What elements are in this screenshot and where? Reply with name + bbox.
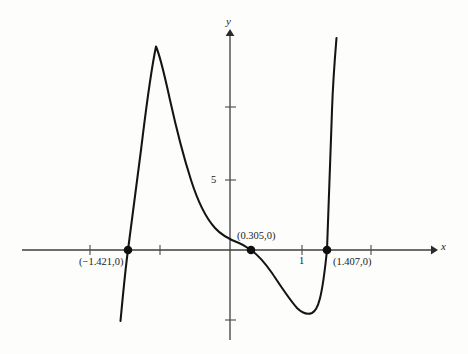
root-label-left: (−1.421,0)	[79, 257, 123, 268]
y-tick-label-5: 5	[211, 175, 216, 186]
y-axis-arrowhead	[226, 29, 235, 36]
root-point-left	[124, 246, 133, 255]
y-axis-label: y	[226, 16, 231, 27]
coordinate-plane	[0, 0, 468, 354]
root-point-mid	[247, 246, 256, 255]
y-axis	[225, 29, 236, 340]
root-point-right	[323, 246, 332, 255]
graph-figure: y x 5 1 (−1.421,0) (0.305,0) (1.407,0)	[0, 0, 468, 354]
x-axis-arrowhead	[431, 246, 438, 255]
x-tick-label-1: 1	[299, 256, 304, 267]
root-label-mid: (0.305,0)	[237, 231, 276, 242]
root-label-right: (1.407,0)	[333, 257, 372, 268]
x-axis-label: x	[441, 241, 446, 252]
